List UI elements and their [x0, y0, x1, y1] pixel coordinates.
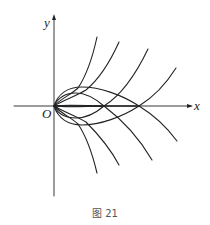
upper-branch-4 [54, 68, 176, 106]
x-axis-label: x [194, 99, 200, 112]
figure-caption: 图 21 [0, 205, 210, 220]
upper-branch-3 [54, 49, 148, 106]
y-axis-arrow-icon [52, 14, 56, 20]
x-axis-arrow-icon [187, 104, 193, 108]
lower-branch-3 [54, 106, 152, 160]
y-axis-label: y [44, 16, 50, 29]
orthogonal-curve-family-diagram [0, 0, 210, 225]
upper-branch-2 [54, 42, 119, 106]
lower-branch-2 [54, 106, 119, 165]
origin-label: O [42, 107, 51, 120]
